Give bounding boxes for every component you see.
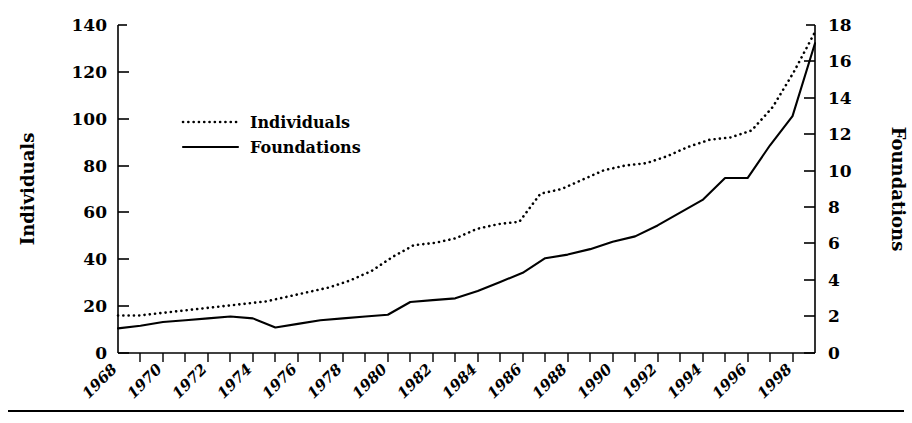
right-tick-label-12: 12 bbox=[828, 124, 852, 144]
right-axis-ticks bbox=[804, 61, 815, 353]
legend-label-individuals: Individuals bbox=[250, 113, 350, 132]
right-tick-label-14: 14 bbox=[828, 88, 852, 108]
series-line-foundations bbox=[118, 43, 815, 328]
x-axis-tick-labels: 1968 1970 1972 1974 1976 1978 1980 1982 … bbox=[79, 360, 797, 403]
left-tick-label-80: 80 bbox=[83, 156, 107, 176]
legend-label-foundations: Foundations bbox=[250, 138, 361, 157]
right-tick-label-16: 16 bbox=[828, 51, 852, 71]
x-tick-label-1976: 1976 bbox=[259, 360, 302, 403]
series-line-individuals bbox=[118, 32, 815, 315]
x-tick-label-1970: 1970 bbox=[124, 360, 167, 403]
left-tick-label-60: 60 bbox=[83, 202, 107, 222]
right-axis-tick-labels: 0 2 4 6 8 10 12 14 16 18 bbox=[828, 15, 852, 363]
right-tick-label-0: 0 bbox=[828, 343, 840, 363]
left-tick-label-140: 140 bbox=[72, 15, 108, 35]
x-tick-label-1992: 1992 bbox=[619, 360, 661, 402]
left-tick-label-120: 120 bbox=[72, 62, 108, 82]
left-tick-label-20: 20 bbox=[83, 296, 107, 316]
left-tick-label-100: 100 bbox=[72, 109, 108, 129]
left-axis-tick-labels: 0 20 40 60 80 100 120 140 bbox=[72, 15, 108, 363]
x-tick-label-1988: 1988 bbox=[529, 360, 572, 403]
chart-legend: Individuals Foundations bbox=[183, 113, 361, 157]
right-tick-label-8: 8 bbox=[828, 197, 840, 217]
x-tick-label-1980: 1980 bbox=[349, 360, 392, 403]
right-tick-label-10: 10 bbox=[828, 161, 852, 181]
right-tick-label-18: 18 bbox=[828, 15, 852, 35]
chart-container: 0 20 40 60 80 100 120 140 Individuals bbox=[0, 0, 912, 423]
x-tick-label-1994: 1994 bbox=[664, 360, 706, 402]
left-axis-ticks bbox=[118, 72, 129, 353]
x-tick-label-1972: 1972 bbox=[169, 360, 211, 402]
x-tick-label-1978: 1978 bbox=[304, 360, 347, 403]
x-tick-label-1982: 1982 bbox=[394, 360, 436, 402]
right-tick-label-4: 4 bbox=[828, 270, 840, 290]
left-tick-label-40: 40 bbox=[83, 249, 107, 269]
left-axis bbox=[118, 25, 127, 353]
x-tick-label-1990: 1990 bbox=[574, 360, 617, 403]
right-tick-label-6: 6 bbox=[828, 233, 840, 253]
x-tick-label-1998: 1998 bbox=[754, 360, 797, 403]
right-axis bbox=[806, 25, 815, 353]
x-tick-label-1986: 1986 bbox=[484, 360, 527, 403]
x-tick-label-1968: 1968 bbox=[79, 360, 122, 403]
right-tick-label-2: 2 bbox=[828, 306, 840, 326]
right-axis-title: Foundations bbox=[888, 127, 909, 252]
left-tick-label-0: 0 bbox=[95, 343, 107, 363]
x-tick-label-1974: 1974 bbox=[214, 360, 256, 402]
left-axis-title: Individuals bbox=[17, 133, 38, 246]
x-tick-label-1984: 1984 bbox=[439, 360, 481, 402]
x-tick-label-1996: 1996 bbox=[709, 360, 752, 403]
line-chart: 0 20 40 60 80 100 120 140 Individuals bbox=[0, 0, 912, 423]
